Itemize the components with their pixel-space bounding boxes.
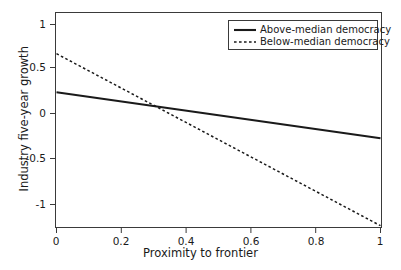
y-axis-title: Industry five-year growth xyxy=(19,29,31,209)
legend-solid-line-swatch xyxy=(234,25,256,35)
x-tick-label: 0.2 xyxy=(113,236,130,247)
series-line-above-median xyxy=(57,92,381,138)
y-tick-label: 1 xyxy=(18,19,46,30)
x-tick-label: 0.4 xyxy=(178,236,195,247)
x-axis-title: Proximity to frontier xyxy=(0,248,401,260)
x-axis-ticks xyxy=(57,228,381,234)
x-tick-label: 0.6 xyxy=(243,236,260,247)
legend-label: Above-median democracy xyxy=(260,25,391,35)
legend-item-below-median: Below-median democracy xyxy=(234,35,390,48)
x-tick-label: 1 xyxy=(377,236,384,247)
y-axis-ticks xyxy=(50,25,56,205)
chart-figure: 1 0.5 0 -0.5 -1 0 0.2 0.4 0.6 0.8 1 Prox… xyxy=(0,0,401,270)
chart-legend: Above-median democracy Below-median demo… xyxy=(228,20,378,50)
x-tick-label: 0.8 xyxy=(308,236,325,247)
x-tick-label: 0 xyxy=(53,236,60,247)
legend-label: Below-median democracy xyxy=(260,37,390,47)
legend-dashed-line-swatch xyxy=(234,37,256,47)
series-line-below-median xyxy=(57,54,381,226)
